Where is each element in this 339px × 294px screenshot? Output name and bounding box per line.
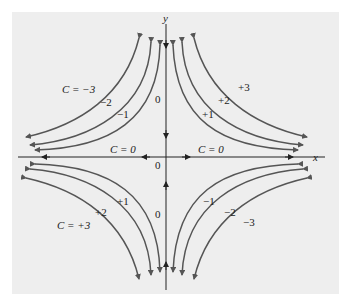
hyperbola-diagram: y x C = −3 −2 −1 0 +3 +2 +1 C = 0 C = 0 … bbox=[0, 0, 339, 294]
label-q1-c3: +3 bbox=[238, 81, 250, 93]
y-axis-label: y bbox=[162, 12, 168, 24]
curve-q4-c-3 bbox=[194, 178, 307, 279]
label-origin-zero: 0 bbox=[155, 159, 161, 171]
label-q3-c2: +2 bbox=[95, 206, 107, 218]
label-q3-c3: C = +3 bbox=[57, 219, 91, 231]
label-q3-c1: +1 bbox=[117, 195, 129, 207]
label-q4-c-1: −1 bbox=[203, 195, 215, 207]
label-q2-c-3: C = −3 bbox=[62, 83, 96, 95]
x-axis-label: x bbox=[312, 151, 318, 163]
label-q2-c0: 0 bbox=[155, 93, 161, 105]
curve-q1-c3 bbox=[194, 38, 307, 137]
label-q1-c2: +2 bbox=[218, 94, 230, 106]
label-q4-c-3: −3 bbox=[243, 216, 255, 228]
label-q1-c1: +1 bbox=[202, 108, 214, 120]
label-q3-c0: 0 bbox=[155, 208, 161, 220]
label-axis-left-c0: C = 0 bbox=[110, 143, 136, 155]
curve-q2-c-1 bbox=[35, 45, 160, 150]
label-q2-c-1: −1 bbox=[117, 108, 129, 120]
curve-q1-c1 bbox=[173, 45, 298, 150]
label-q2-c-2: −2 bbox=[100, 96, 112, 108]
label-axis-right-c0: C = 0 bbox=[198, 143, 224, 155]
label-q4-c-2: −2 bbox=[224, 206, 236, 218]
curve-q3-c1 bbox=[35, 164, 160, 272]
curve-q4-c-1 bbox=[173, 164, 298, 272]
